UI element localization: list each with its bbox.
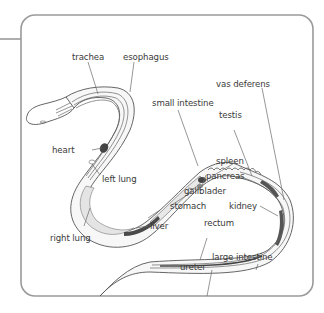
left-lung-organ bbox=[89, 160, 95, 164]
label-small-intestine: small intestine bbox=[152, 98, 214, 108]
label-rectum: rectum bbox=[204, 218, 234, 228]
label-vas-deferens: vas deferens bbox=[216, 79, 271, 89]
label-stomach: stomach bbox=[170, 201, 206, 211]
label-pancreas: pancreas bbox=[206, 171, 245, 181]
label-ureter: ureter bbox=[180, 262, 206, 272]
label-kidney: kidney bbox=[229, 201, 257, 211]
label-spleen: spleen bbox=[216, 156, 244, 166]
label-left-lung: left lung bbox=[102, 174, 137, 184]
label-trachea: trachea bbox=[72, 52, 104, 62]
label-testis: testis bbox=[219, 110, 242, 120]
snake-anatomy-diagram: trachea esophagus vas deferens small int… bbox=[0, 0, 324, 313]
label-esophagus: esophagus bbox=[123, 52, 169, 62]
label-large-intestine: large intestine bbox=[212, 252, 272, 262]
label-gallbladder: gallblader bbox=[184, 186, 226, 196]
label-right-lung: right lung bbox=[50, 233, 91, 243]
label-heart: heart bbox=[52, 145, 75, 155]
label-liver: liver bbox=[150, 221, 169, 231]
